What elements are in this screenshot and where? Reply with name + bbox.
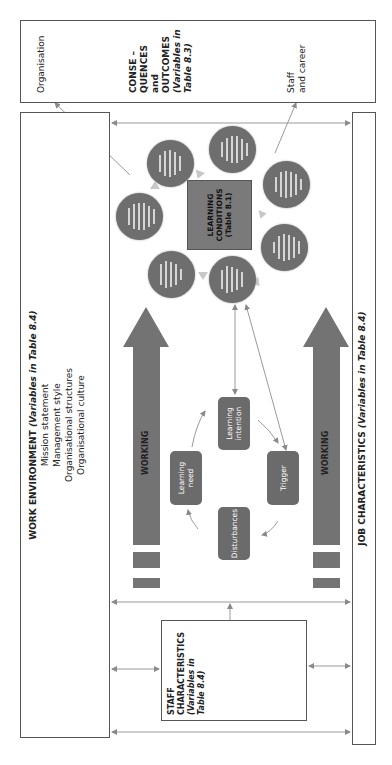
learning-need-line: Learning — [177, 462, 186, 495]
outcomes-title: CONSE – QUENCES and OUTCOMES (Variables … — [128, 29, 194, 93]
staff-characteristics-text: STAFF CHARACTERISTICS (Variables in Tabl… — [167, 632, 207, 715]
staff-subtitle-line: Table 8.4) — [197, 632, 207, 715]
outcomes-title-line: QUENCES — [139, 29, 150, 93]
outcomes-box — [20, 20, 376, 103]
outcomes-subtitle-line: Table 8.3) — [183, 29, 194, 93]
job-characteristics-title: JOB CHARACTERISTICS (Variables in Table … — [357, 112, 367, 745]
working-bar — [133, 578, 160, 588]
learning-conditions-line: CONDITIONS — [215, 188, 224, 241]
outcomes-title-line: OUTCOMES — [161, 29, 172, 93]
work-environment-item: Mission statement — [39, 112, 51, 738]
condition-circle-4 — [261, 224, 308, 271]
work-environment-title-main: WORK ENVIRONMENT — [28, 427, 38, 540]
work-environment-title: WORK ENVIRONMENT (Variables in Table 8.4… — [27, 112, 39, 738]
disturbances-box: Disturbances — [218, 507, 250, 560]
work-environment-text: WORK ENVIRONMENT (Variables in Table 8.4… — [27, 112, 87, 738]
trigger-label: Trigger — [279, 465, 288, 491]
learning-intention-line: Learning — [225, 407, 234, 441]
work-environment-title-italic: (Variables in Table 8.4) — [28, 310, 38, 427]
outcomes-title-line: CONSE – — [128, 29, 139, 93]
organisation-label: Organisation — [36, 35, 46, 93]
learning-conditions-line: LEARNING — [206, 188, 215, 241]
learning-intention-line: intention — [234, 407, 243, 441]
learning-need-box: Learningneed — [170, 451, 202, 505]
working-label-2: WORKING — [321, 431, 330, 475]
job-characteristics-title-main: JOB CHARACTERISTICS — [357, 428, 367, 546]
staff-subtitle-line: (Variables in — [187, 632, 197, 715]
condition-circle-1 — [147, 140, 194, 187]
learning-conditions-box: LEARNINGCONDITIONS(Table 8.1) — [187, 180, 252, 250]
staff-career-label: Staff and career — [286, 44, 308, 93]
work-environment-item: Organisational structures — [63, 112, 75, 738]
job-characteristics-title-italic: (Variables in Table 8.4) — [357, 311, 367, 428]
working-bar — [133, 552, 160, 568]
working-bar — [313, 578, 340, 588]
working-bar — [313, 552, 340, 568]
staff-title-line: STAFF — [167, 632, 177, 715]
staff-title-line: CHARACTERISTICS — [177, 632, 187, 715]
disturbances-label: Disturbances — [230, 509, 239, 558]
working-label-1: WORKING — [141, 431, 150, 475]
learning-intention-box: Learningintention — [218, 397, 250, 450]
learning-need-line: need — [186, 462, 195, 495]
trigger-box: Trigger — [267, 451, 299, 505]
condition-circle-3 — [263, 161, 310, 208]
diagram-canvas: Organisation CONSE – QUENCES and OUTCOME… — [0, 0, 392, 765]
learning-conditions-line: (Table 8.1) — [224, 188, 233, 241]
outcomes-subtitle-line: (Variables in — [172, 29, 183, 93]
outcomes-title-line: and — [150, 29, 161, 93]
work-environment-item: Management style — [51, 112, 63, 738]
condition-circle-7 — [116, 193, 163, 240]
staff-career-line: Staff — [286, 44, 297, 93]
condition-circle-5 — [209, 256, 256, 303]
working-arrow-2 — [303, 307, 349, 545]
condition-circle-6 — [148, 251, 195, 298]
working-arrow-1 — [123, 307, 169, 545]
work-environment-item: Organisational culture — [75, 112, 87, 738]
condition-circle-2 — [209, 126, 256, 173]
staff-career-line: and career — [297, 44, 308, 93]
